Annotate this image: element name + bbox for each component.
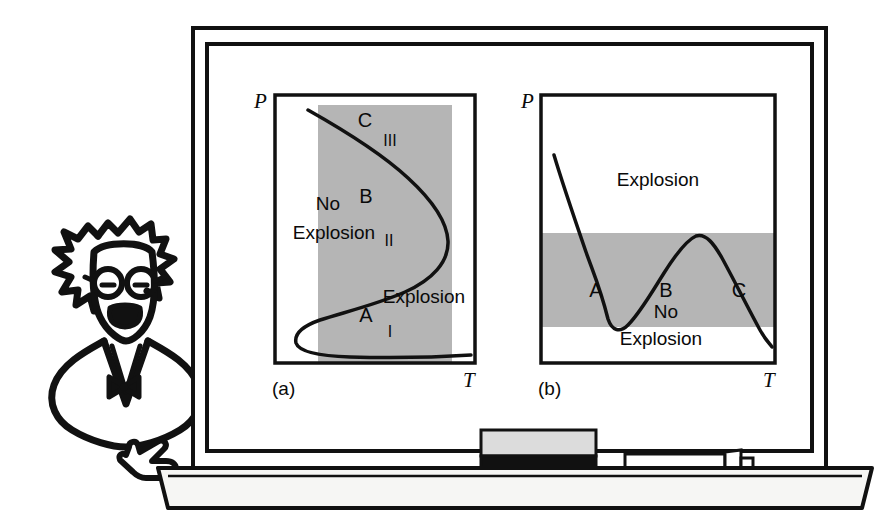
panel-a-annotation-No: No — [316, 193, 340, 214]
chalk-tray — [158, 468, 872, 508]
panel-b-panel-label: (b) — [538, 378, 561, 399]
panel-a-annotation-I: I — [388, 323, 392, 340]
eraser-top — [481, 430, 596, 456]
bow-tie-knot — [120, 383, 128, 391]
panel-b-annotation-Explosion-bottom: Explosion — [620, 328, 702, 349]
screenshot-root: P T (a) C III No B Explosion II Explosio… — [0, 0, 874, 517]
panel-b-annotation-C: C — [732, 279, 746, 301]
panel-a-annotation-NoExplosion: Explosion — [293, 222, 375, 243]
panel-b-xlabel: T — [763, 368, 776, 392]
panel-b-ylabel: P — [520, 89, 534, 113]
panel-a-annotation-B: B — [359, 185, 372, 207]
panel-a-annotation-II: II — [385, 232, 394, 249]
panel-a-annotation-Explosion: Explosion — [383, 286, 465, 307]
panel-b-annotation-A: A — [589, 279, 603, 301]
illustration-canvas: P T (a) C III No B Explosion II Explosio… — [0, 0, 874, 517]
panel-b-annotation-No: No — [654, 301, 678, 322]
panel-a-panel-label: (a) — [272, 378, 295, 399]
panel-b-annotation-B: B — [659, 279, 672, 301]
panel-a-xlabel: T — [463, 368, 476, 392]
panel-a-ylabel: P — [253, 89, 267, 113]
panel-a-annotation-C: C — [358, 109, 372, 131]
panel-a-annotation-A: A — [359, 304, 373, 326]
mouth — [109, 305, 140, 327]
panel-a-annotation-III: III — [383, 132, 396, 149]
panel-b-annotation-Explosion-top: Explosion — [617, 169, 699, 190]
